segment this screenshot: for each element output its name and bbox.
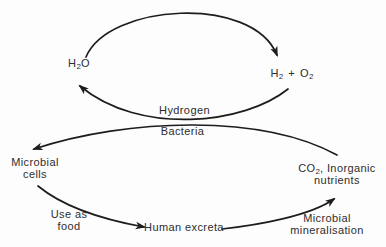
mineralisation-line1: Microbial: [283, 212, 371, 224]
hydrogen-label: Hydrogen: [147, 105, 222, 117]
arc-water-to-gas: [86, 13, 277, 57]
use-as-food-line2: food: [38, 221, 100, 233]
h2-h: H: [270, 67, 278, 79]
h2-plus-o2-label: H2+O2: [248, 68, 336, 80]
human-excreta-label: Human excreta: [142, 222, 226, 234]
microbial-cells-label: Microbial cells: [4, 157, 66, 180]
human-excreta-text: Human excreta: [144, 221, 224, 233]
plus-sign: +: [283, 67, 300, 79]
microbial-mineralisation-label: Microbial mineralisation: [283, 212, 371, 236]
h2o-subscript: 2: [76, 62, 80, 71]
co2-inorganic-nutrients-label: CO2, Inorganic nutrients: [291, 163, 383, 186]
mineralisation-line2: mineralisation: [283, 224, 371, 236]
bacteria-label: Bacteria: [145, 126, 220, 138]
use-as-food-label: Use as food: [38, 209, 100, 232]
co2-co: CO: [298, 162, 315, 174]
o2-o: O: [300, 67, 309, 79]
use-as-food-line1: Use as: [38, 209, 100, 221]
co2-nutrients-line2: nutrients: [291, 175, 383, 187]
microbial-cells-line1: Microbial: [4, 157, 66, 169]
hydrogen-text: Hydrogen: [159, 104, 210, 116]
bacteria-text: Bacteria: [161, 125, 205, 137]
microbial-cells-line2: cells: [4, 169, 66, 181]
h2-subscript: 2: [279, 72, 283, 81]
co2-inorganic-text: , Inorganic: [320, 162, 376, 174]
o2-subscript: 2: [309, 72, 313, 81]
h2o-label: H2O: [58, 58, 100, 70]
h2o-o: O: [81, 57, 90, 69]
co2-nutrients-line1: CO2, Inorganic: [291, 163, 383, 175]
co2-subscript: 2: [316, 167, 320, 176]
cycle-diagram: H2O H2+O2 Hydrogen Bacteria Microbial ce…: [0, 0, 386, 247]
